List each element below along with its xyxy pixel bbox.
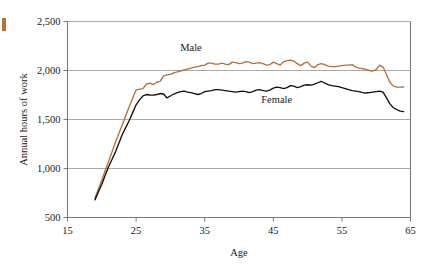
xtick-label-45: 45 <box>268 225 279 236</box>
xtick-label-15: 15 <box>62 225 73 236</box>
chart-figure: 5001,0001,5002,0002,500152535455565MaleF… <box>0 0 428 277</box>
series-label-male: Male <box>180 42 202 53</box>
xtick-label-35: 35 <box>199 225 210 236</box>
series-label-female: Female <box>261 94 292 105</box>
page-edge-marker <box>2 18 6 31</box>
series-line-male <box>95 60 404 198</box>
ytick-label-2000: 2,000 <box>37 65 61 76</box>
ytick-label-1500: 1,500 <box>37 114 61 125</box>
y-axis-title: Annual hours of work <box>18 73 29 166</box>
ytick-label-1000: 1,000 <box>37 163 61 174</box>
ytick-label-2500: 2,500 <box>37 16 61 27</box>
xtick-label-65: 65 <box>405 225 416 236</box>
xtick-label-55: 55 <box>337 225 348 236</box>
series-line-female <box>95 81 404 200</box>
xtick-label-25: 25 <box>131 225 142 236</box>
line-chart: 5001,0001,5002,0002,500152535455565MaleF… <box>0 0 428 277</box>
x-axis-title: Age <box>230 247 248 258</box>
ytick-label-500: 500 <box>45 212 61 223</box>
